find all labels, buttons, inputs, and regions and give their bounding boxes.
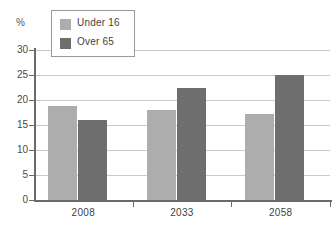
y-axis-tick-label: 5: [2, 169, 28, 180]
x-axis-label-2058: 2058: [231, 207, 330, 218]
legend-swatch-icon-under-16: [60, 19, 71, 30]
x-axis-label-2008: 2008: [34, 207, 133, 218]
y-axis-tick-label: 20: [2, 94, 28, 105]
bar-2058-over-65: [275, 75, 304, 200]
x-axis-line: [34, 200, 332, 202]
legend-label-under-16: Under 16: [77, 17, 120, 28]
x-axis-label-2033: 2033: [133, 207, 232, 218]
legend-swatch-icon-over-65: [60, 38, 71, 49]
legend-label-over-65: Over 65: [77, 36, 114, 47]
x-axis-separator-tick: [133, 200, 134, 207]
x-axis-separator-tick: [231, 200, 232, 207]
x-axis-separator-tick: [330, 200, 331, 207]
bar-2033-under-16: [147, 110, 176, 200]
legend: Under 16 Over 65: [51, 10, 135, 57]
bar-2008-under-16: [48, 106, 77, 200]
y-axis-tick-label: 25: [2, 69, 28, 80]
bar-chart: % Under 16 Over 65 051015202530200820332…: [0, 0, 336, 228]
bar-2058-under-16: [245, 114, 274, 200]
y-axis-unit-label: %: [16, 17, 25, 28]
plot-area: [34, 50, 330, 200]
y-axis-tick-label: 0: [2, 194, 28, 205]
y-axis-tick-label: 30: [2, 44, 28, 55]
y-axis-tick-label: 15: [2, 119, 28, 130]
y-axis-tick-label: 10: [2, 144, 28, 155]
y-axis-line: [34, 48, 36, 201]
bar-2033-over-65: [177, 88, 206, 201]
bar-2008-over-65: [78, 120, 107, 200]
